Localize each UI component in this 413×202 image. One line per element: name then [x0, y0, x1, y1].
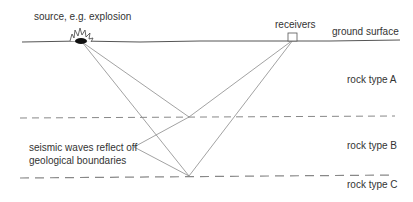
rock-type-c-label: rock type C — [347, 179, 398, 190]
rock-type-a-label: rock type A — [347, 74, 396, 85]
ground-surface-label: ground surface — [332, 26, 399, 37]
annotation-line1: seismic waves reflect off — [29, 142, 137, 153]
receiver-icon — [288, 33, 297, 41]
boundary-a-b — [20, 116, 395, 118]
annotation-line2: geological boundaries — [29, 155, 126, 166]
rock-type-b-label: rock type B — [347, 140, 397, 151]
receivers-label: receivers — [275, 19, 316, 30]
annotation-pointer — [134, 117, 189, 176]
source-label: source, e.g. explosion — [34, 11, 131, 22]
boundary-b-c — [20, 175, 395, 178]
